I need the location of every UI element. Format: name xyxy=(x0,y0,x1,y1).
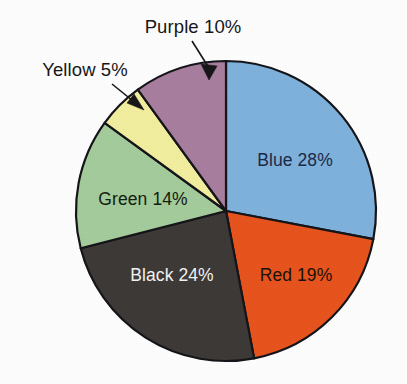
pie-chart-svg: Blue 28% Red 19% Black 24% Green 14% Pur… xyxy=(0,0,407,384)
pie-label-green: Green 14% xyxy=(98,189,187,209)
pie-label-blue: Blue 28% xyxy=(257,150,333,170)
callout-yellow: Yellow 5% xyxy=(42,59,144,110)
pie-label-red: Red 19% xyxy=(260,265,333,285)
pie-label-purple: Purple 10% xyxy=(145,16,242,37)
pie-slices xyxy=(76,61,376,361)
pie-label-yellow: Yellow 5% xyxy=(42,59,128,80)
pie-label-black: Black 24% xyxy=(130,265,214,285)
pie-chart-figure: Blue 28% Red 19% Black 24% Green 14% Pur… xyxy=(0,0,407,384)
callout-leader-line-yellow xyxy=(112,84,133,101)
